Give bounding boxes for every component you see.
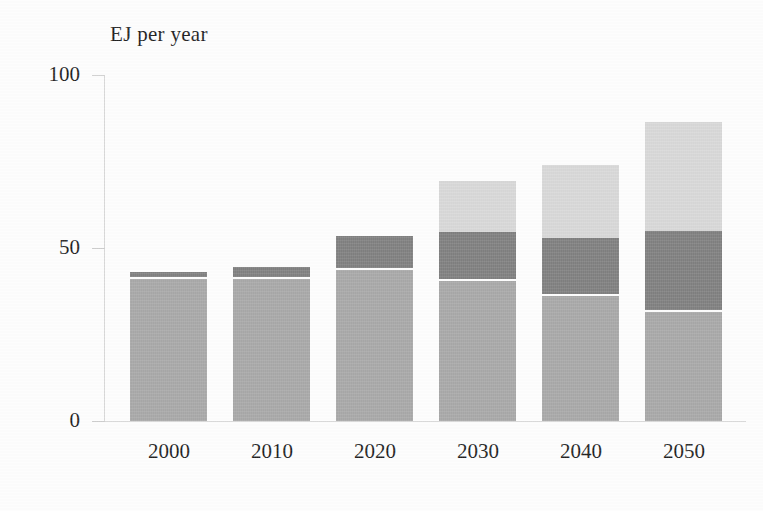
- x-axis-line: [104, 421, 746, 422]
- bar-segment-bottom-segment-2050: [645, 312, 722, 421]
- x-tick-label-2040: 2040: [533, 441, 629, 462]
- x-tick-label-2030: 2030: [430, 441, 526, 462]
- bar-2030: [439, 181, 516, 421]
- bar-2040: [542, 165, 619, 421]
- bar-segment-bottom-segment-2040: [542, 296, 619, 421]
- bar-segment-middle-segment-2050: [645, 231, 722, 312]
- x-tick-label-2050: 2050: [636, 441, 732, 462]
- bar-2000: [130, 272, 207, 421]
- x-tick-label-2010: 2010: [224, 441, 320, 462]
- bar-segment-bottom-segment-2000: [130, 279, 207, 421]
- bar-segment-bottom-segment-2010: [233, 279, 310, 421]
- chart-figure: EJ per year 100 50 0 2000 2010 2020 2030…: [0, 0, 763, 511]
- x-tick-label-2000: 2000: [121, 441, 217, 462]
- bar-segment-top-segment-2040: [542, 165, 619, 238]
- bar-segment-middle-segment-2030: [439, 232, 516, 280]
- bars-layer: [0, 0, 763, 421]
- bar-2010: [233, 267, 310, 421]
- bar-segment-bottom-segment-2030: [439, 281, 516, 421]
- bar-segment-middle-segment-2020: [336, 236, 413, 271]
- x-tick-label-2020: 2020: [327, 441, 423, 462]
- bar-2050: [645, 122, 722, 421]
- bar-segment-top-segment-2030: [439, 181, 516, 233]
- bar-2020: [336, 236, 413, 421]
- bar-segment-middle-segment-2040: [542, 238, 619, 297]
- bar-segment-bottom-segment-2020: [336, 270, 413, 421]
- bar-segment-top-segment-2050: [645, 122, 722, 231]
- y-tick-mark-0: [92, 421, 105, 422]
